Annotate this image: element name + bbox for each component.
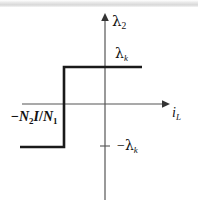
lower-level-sign: − bbox=[117, 138, 125, 153]
lower-level-symbol: λ bbox=[125, 137, 134, 153]
upper-level-subscript: k bbox=[124, 53, 128, 63]
threshold-denominator-symbol: N bbox=[43, 109, 53, 124]
x-axis-arrowhead bbox=[162, 100, 170, 108]
upper-level-label: λk bbox=[115, 46, 128, 62]
threshold-sign: − bbox=[11, 109, 19, 124]
y-axis-label-subscript: 2 bbox=[122, 20, 127, 31]
y-axis-label-symbol: λ bbox=[112, 12, 122, 30]
figure-container: λ2 λk −λk iL −N2I/N1 bbox=[0, 0, 198, 210]
threshold-label: −N2I/N1 bbox=[11, 110, 58, 125]
y-axis-arrowhead bbox=[101, 13, 109, 21]
lower-level-subscript: k bbox=[134, 145, 138, 155]
x-axis-label: iL bbox=[172, 106, 181, 121]
plot-canvas bbox=[0, 0, 198, 210]
lower-level-label: −λk bbox=[117, 138, 138, 154]
y-axis-label: λ2 bbox=[112, 14, 126, 30]
step-characteristic-curve bbox=[20, 67, 142, 147]
x-axis-label-subscript: L bbox=[176, 112, 181, 122]
upper-level-symbol: λ bbox=[115, 45, 124, 61]
threshold-denominator-subscript: 1 bbox=[53, 116, 57, 126]
threshold-numerator-symbol: N bbox=[19, 109, 29, 124]
